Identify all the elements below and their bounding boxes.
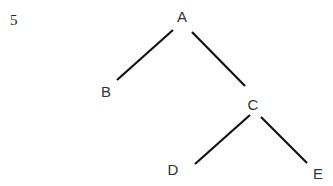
edge-c-d xyxy=(195,115,250,164)
edge-c-e xyxy=(261,117,307,163)
node-c: C xyxy=(248,96,259,113)
tree-edges xyxy=(117,30,307,164)
tree-nodes: ABCDE xyxy=(101,8,323,182)
edge-a-b xyxy=(117,30,173,80)
node-e: E xyxy=(313,165,323,182)
edge-a-c xyxy=(192,32,245,86)
question-number: 5 xyxy=(10,12,18,28)
node-b: B xyxy=(101,83,111,100)
node-d: D xyxy=(168,161,179,178)
node-a: A xyxy=(177,8,187,25)
binary-tree-diagram: 5 ABCDE xyxy=(0,0,333,186)
